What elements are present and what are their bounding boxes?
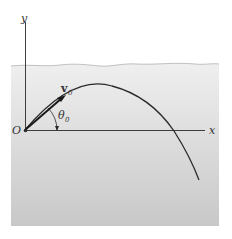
y-axis-label: y: [20, 12, 28, 25]
angle-label: θ: [58, 109, 65, 122]
shaded-region: [11, 63, 219, 226]
velocity-subscript: 0: [68, 89, 73, 97]
origin-point: [24, 129, 28, 133]
x-axis-label: x: [209, 124, 216, 137]
angle-subscript: 0: [65, 116, 70, 124]
origin-label: O: [12, 124, 21, 137]
projectile-diagram: y x O v 0 θ 0: [0, 0, 232, 239]
velocity-label: v: [60, 82, 68, 95]
